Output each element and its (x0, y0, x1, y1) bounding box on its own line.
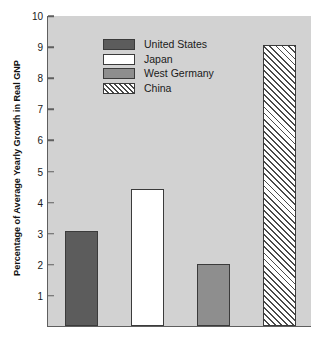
legend-item-japan: Japan (103, 53, 214, 67)
y-axis-tick-mark (48, 77, 54, 79)
legend-item-west-germany: West Germany (103, 67, 214, 81)
legend-label-west-germany: West Germany (144, 68, 214, 79)
legend-label-china: China (144, 83, 171, 94)
y-axis-tick-mark (48, 171, 54, 173)
bar-japan (131, 189, 164, 326)
legend-swatch-japan-icon (103, 54, 135, 65)
legend-item-united-states: United States (103, 38, 214, 52)
y-axis-tick-label: 10 (32, 11, 43, 22)
y-axis-tick-mark (48, 264, 54, 266)
y-axis-tick-mark (48, 15, 54, 17)
bar-west-germany (197, 264, 230, 326)
legend-swatch-west-germany-icon (103, 68, 135, 79)
bar-united-states (65, 231, 98, 326)
y-axis-tick-label: 8 (37, 73, 43, 84)
legend-label-japan: Japan (144, 54, 173, 65)
plot-area: United States Japan West Germany China (47, 16, 311, 327)
bar-chart: Percentage of Average Yearly Growth in R… (0, 0, 311, 346)
y-axis-tick-mark (48, 109, 54, 111)
y-axis-tick-label: 9 (37, 42, 43, 53)
y-axis-title-container: Percentage of Average Yearly Growth in R… (0, 0, 20, 346)
y-axis-tick-label: 1 (37, 290, 43, 301)
y-axis-tick-label: 4 (37, 197, 43, 208)
y-axis-tick-mark (48, 295, 54, 297)
y-axis-tick-label: 3 (37, 228, 43, 239)
legend-swatch-china-icon (103, 83, 135, 94)
chart-legend: United States Japan West Germany China (103, 38, 214, 95)
y-axis-tick-labels: 12345678910 (20, 0, 46, 346)
y-axis-tick-label: 5 (37, 166, 43, 177)
y-axis-tick-label: 2 (37, 259, 43, 270)
legend-item-china: China (103, 82, 214, 96)
y-axis-tick-mark (48, 140, 54, 142)
y-axis-tick-mark (48, 202, 54, 204)
y-axis-tick-label: 6 (37, 135, 43, 146)
y-axis-tick-mark (48, 46, 54, 48)
y-axis-tick-mark (48, 233, 54, 235)
legend-label-united-states: United States (144, 39, 207, 50)
y-axis-tick-label: 7 (37, 104, 43, 115)
legend-swatch-united-states-icon (103, 39, 135, 50)
bar-china (263, 45, 296, 326)
